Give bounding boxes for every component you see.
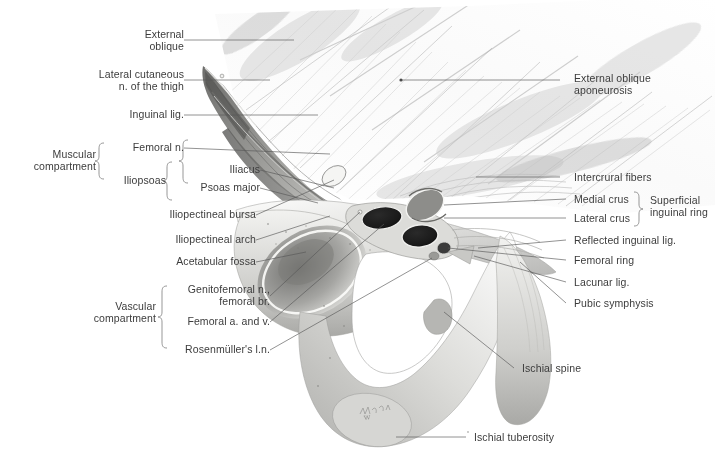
label-lateral-crus: Lateral crus <box>574 212 636 224</box>
figure-canvas: w <box>0 0 728 469</box>
label-reflected-inguinal-ligament: Reflected inguinal lig. <box>574 234 724 246</box>
label-iliopectineal-bursa: Iliopectineal bursa <box>136 208 256 220</box>
label-medial-crus: Medial crus <box>574 193 636 205</box>
label-ischial-tuberosity: Ischial tuberosity <box>474 431 614 443</box>
label-acetabular-fossa: Acetabular fossa <box>140 255 256 267</box>
label-lacunar-ligament: Lacunar lig. <box>574 276 724 288</box>
label-external-oblique: External oblique <box>64 28 184 53</box>
label-pubic-symphysis: Pubic symphysis <box>574 297 724 309</box>
label-iliacus: Iliacus <box>180 163 260 175</box>
rosenmuller-node-shape <box>429 252 439 260</box>
label-superficial-inguinal-ring: Superficial inguinal ring <box>650 194 728 219</box>
label-femoral-artery-vein: Femoral a. and v. <box>166 315 270 327</box>
label-external-oblique-aponeurosis: External oblique aponeurosis <box>574 72 724 97</box>
label-femoral-nerve: Femoral n. <box>94 141 184 153</box>
genitofemoral-nerve-point <box>358 210 362 214</box>
label-femoral-ring: Femoral ring <box>574 254 724 266</box>
label-genitofemoral-nerve: Genitofemoral n., femoral br. <box>160 283 270 308</box>
label-vascular-compartment: Vascular compartment <box>78 300 156 325</box>
label-muscular-compartment: Muscular compartment <box>20 148 96 173</box>
label-psoas-major: Psoas major <box>160 181 260 193</box>
label-iliopsoas: Iliopsoas <box>100 174 166 186</box>
label-ischial-spine: Ischial spine <box>522 362 642 374</box>
label-intercrural-fibers: Intercrural fibers <box>574 171 724 183</box>
label-inguinal-ligament: Inguinal lig. <box>64 108 184 120</box>
label-lateral-cutaneous-nerve: Lateral cutaneous n. of the thigh <box>44 68 184 93</box>
lateral-cutaneous-nerve-point <box>220 74 224 78</box>
label-iliopectineal-arch: Iliopectineal arch <box>136 233 256 245</box>
label-rosenmuller-node: Rosenmüller's l.n. <box>160 343 270 355</box>
